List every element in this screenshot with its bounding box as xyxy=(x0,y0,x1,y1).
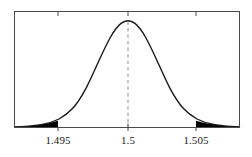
x-tick-label-1: 1.495 xyxy=(45,134,70,146)
x-tick-label-2: 1.5 xyxy=(121,134,135,146)
normal-curve xyxy=(15,21,240,127)
shaded-tails xyxy=(15,121,240,128)
x-tick-label-3: 1.505 xyxy=(183,134,208,146)
top-axis-ticks xyxy=(58,12,196,17)
normal-distribution-figure: 1.495 1.5 1.505 xyxy=(0,0,252,157)
plot-frame xyxy=(15,12,240,128)
